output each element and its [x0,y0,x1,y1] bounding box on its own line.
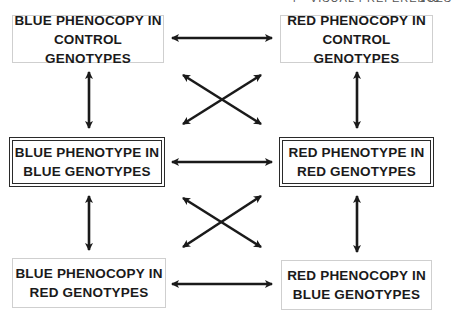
connection-arrows [0,0,444,320]
